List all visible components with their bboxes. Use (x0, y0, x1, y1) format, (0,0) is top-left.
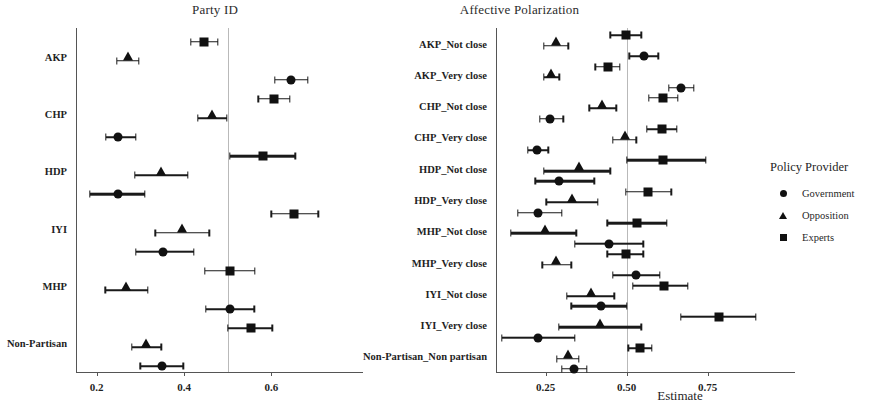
triangle-icon (141, 338, 151, 347)
triangle-icon (207, 109, 217, 118)
triangle-icon (586, 287, 596, 296)
confidence-interval-cap (571, 261, 572, 268)
circle-icon (226, 305, 235, 314)
circle-icon (114, 133, 123, 142)
confidence-interval-cap (593, 178, 594, 185)
confidence-interval-cap (615, 105, 616, 112)
triangle-icon (595, 318, 605, 327)
confidence-interval-cap (636, 136, 637, 143)
confidence-interval-cap (610, 32, 611, 39)
confidence-interval-cap (258, 95, 259, 102)
circle-icon (604, 239, 613, 248)
circle-icon (534, 208, 543, 217)
x-axis-title: Estimate (657, 388, 703, 404)
legend-item-label: Government (802, 188, 855, 199)
confidence-interval-cap (640, 324, 641, 331)
confidence-interval-cap (254, 306, 255, 313)
y-tick-label: HDP_Not close (300, 163, 487, 174)
confidence-interval-cap (671, 188, 672, 195)
x-tick-mark (184, 372, 185, 376)
confidence-interval-cap (610, 167, 611, 174)
confidence-interval-cap (705, 157, 706, 164)
circle-icon (632, 271, 641, 280)
confidence-interval-cap (626, 303, 627, 310)
circle-icon (554, 177, 563, 186)
legend-item-opposition[interactable]: Opposition (774, 210, 849, 221)
square-icon (269, 94, 278, 103)
confidence-interval-cap (612, 136, 613, 143)
confidence-interval-cap (204, 267, 205, 274)
square-icon (660, 281, 669, 290)
x-tick-label: 0.50 (617, 381, 636, 393)
y-axis-line (496, 28, 497, 372)
y-tick-label: Non-Partisan (0, 338, 67, 349)
confidence-interval-cap (193, 248, 194, 255)
square-icon (643, 187, 652, 196)
confidence-interval-cap (543, 167, 544, 174)
y-tick-label: AKP (0, 51, 67, 62)
confidence-interval-cap (131, 344, 132, 351)
triangle-icon (177, 224, 187, 233)
y-tick-label: MHP_Very close (300, 257, 487, 268)
confidence-interval-cap (693, 84, 694, 91)
circle-icon (774, 190, 792, 197)
square-icon (659, 93, 668, 102)
y-tick-label: HDP_Very close (300, 195, 487, 206)
confidence-interval-cap (576, 230, 577, 237)
square-icon (658, 125, 667, 134)
triangle-icon (551, 37, 561, 46)
reference-line (228, 28, 229, 372)
circle-icon (159, 247, 168, 256)
confidence-interval-cap (197, 115, 198, 122)
confidence-interval-cap (543, 42, 544, 49)
confidence-interval-cap (317, 210, 318, 217)
y-tick-label: CHP_Very close (300, 132, 487, 143)
x-tick-label: 0.6 (265, 381, 279, 393)
confidence-interval-cap (628, 345, 629, 352)
confidence-interval-bar (535, 180, 594, 183)
confidence-interval-cap (614, 293, 615, 300)
x-tick-label: 0.25 (536, 381, 555, 393)
confidence-interval-cap (539, 115, 540, 122)
circle-icon (287, 75, 296, 84)
triangle-icon (574, 162, 584, 171)
confidence-interval-cap (643, 240, 644, 247)
confidence-interval-cap (568, 42, 569, 49)
circle-icon (532, 146, 541, 155)
legend-item-experts[interactable]: Experts (774, 232, 834, 243)
x-tick-mark (546, 372, 547, 376)
square-icon (714, 312, 723, 321)
confidence-interval-cap (578, 355, 579, 362)
circle-icon (597, 302, 606, 311)
square-icon (632, 219, 641, 228)
confidence-interval-cap (547, 147, 548, 154)
forest-plot-figure: Party ID 0.20.40.6AKPCHPHDPIYIMHPNon-Par… (0, 0, 869, 410)
circle-icon (676, 83, 685, 92)
triangle-icon (597, 99, 607, 108)
y-axis-line (76, 28, 77, 372)
confidence-interval-cap (597, 199, 598, 206)
confidence-interval-cap (546, 199, 547, 206)
y-tick-label: Non-Partisan_Non partisan (300, 351, 487, 362)
square-icon (199, 37, 208, 46)
confidence-interval-cap (561, 209, 562, 216)
y-tick-label: MHP (0, 281, 67, 292)
circle-icon (640, 52, 649, 61)
triangle-icon (546, 68, 556, 77)
confidence-interval-cap (226, 115, 227, 122)
confidence-interval-cap (140, 363, 141, 370)
confidence-interval-cap (755, 313, 756, 320)
confidence-interval-cap (640, 32, 641, 39)
confidence-interval-cap (217, 38, 218, 45)
x-tick-mark (97, 372, 98, 376)
confidence-interval-cap (135, 248, 136, 255)
triangle-icon (774, 212, 792, 219)
confidence-interval-cap (628, 53, 629, 60)
y-tick-label: IYI_Very close (300, 320, 487, 331)
square-icon (225, 266, 234, 275)
legend-item-government[interactable]: Government (774, 188, 855, 199)
confidence-interval-cap (501, 334, 502, 341)
confidence-interval-cap (589, 105, 590, 112)
confidence-interval-cap (659, 272, 660, 279)
confidence-interval-cap (566, 293, 567, 300)
